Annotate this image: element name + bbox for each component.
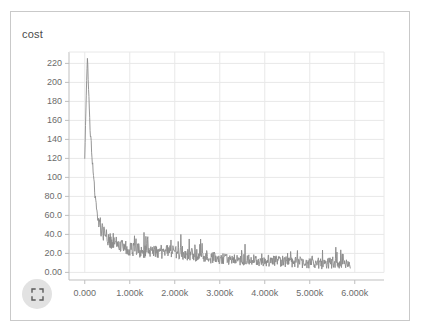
svg-text:6.000k: 6.000k xyxy=(341,288,369,298)
svg-text:2.000k: 2.000k xyxy=(161,288,189,298)
svg-text:160: 160 xyxy=(47,115,62,125)
svg-text:100: 100 xyxy=(47,172,62,182)
svg-text:40.0: 40.0 xyxy=(44,229,62,239)
svg-text:200: 200 xyxy=(47,77,62,87)
svg-text:20.0: 20.0 xyxy=(44,248,62,258)
svg-text:120: 120 xyxy=(47,153,62,163)
svg-text:4.000k: 4.000k xyxy=(251,288,279,298)
x-axis-ticks xyxy=(85,280,355,284)
svg-text:80.0: 80.0 xyxy=(44,191,62,201)
svg-text:1.000k: 1.000k xyxy=(116,288,144,298)
chart-card: cost 0.0020.040.060.080.0100120140160180… xyxy=(10,11,410,321)
svg-text:0.000: 0.000 xyxy=(73,288,96,298)
x-axis-tick-labels: 0.0001.000k2.000k3.000k4.000k5.000k6.000… xyxy=(73,288,368,298)
expand-fullscreen-button[interactable] xyxy=(22,279,52,309)
cost-series-line xyxy=(85,58,351,269)
svg-text:60.0: 60.0 xyxy=(44,210,62,220)
svg-text:180: 180 xyxy=(47,96,62,106)
svg-text:3.000k: 3.000k xyxy=(206,288,234,298)
y-axis-tick-labels: 0.0020.040.060.080.010012014016018020022… xyxy=(44,58,62,277)
svg-text:0.00: 0.00 xyxy=(44,267,62,277)
cost-line-chart: 0.0020.040.060.080.010012014016018020022… xyxy=(11,12,411,322)
svg-text:5.000k: 5.000k xyxy=(296,288,324,298)
expand-fullscreen-icon xyxy=(31,288,44,301)
y-axis-ticks xyxy=(65,63,69,272)
svg-text:140: 140 xyxy=(47,134,62,144)
svg-text:220: 220 xyxy=(47,58,62,68)
